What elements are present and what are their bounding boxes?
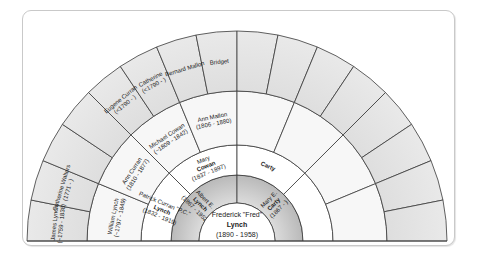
fan-chart: Albert E.Lynch(1867 - 1952)Mary E.Carty(… [0,0,477,257]
